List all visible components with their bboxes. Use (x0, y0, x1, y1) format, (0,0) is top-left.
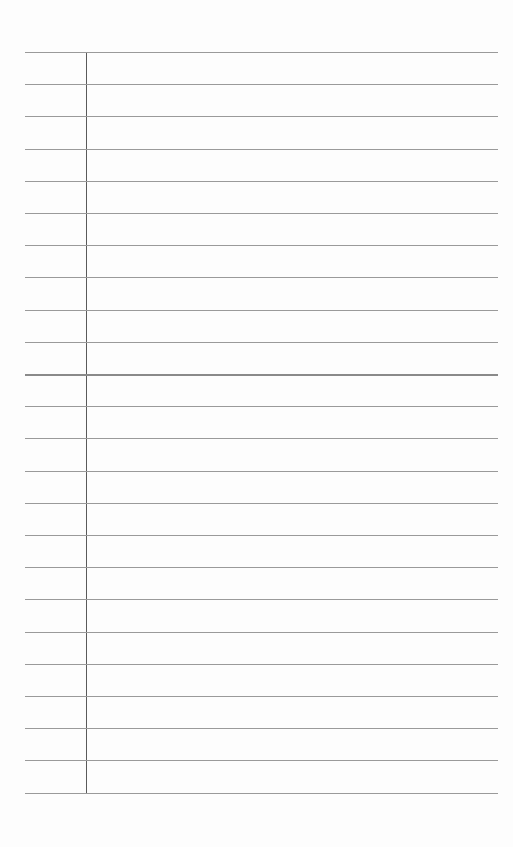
ruled-line (25, 116, 498, 117)
ruled-line (25, 245, 498, 246)
ruled-line (25, 567, 498, 568)
ruled-line (25, 84, 498, 85)
ruled-line (25, 599, 498, 600)
ruled-line (25, 213, 498, 214)
notepad-page (0, 0, 513, 847)
ruled-line (25, 310, 498, 311)
ruled-line (25, 406, 498, 407)
ruled-line (25, 438, 498, 439)
ruled-line (25, 632, 498, 633)
ruled-line (25, 52, 498, 53)
margin-line (86, 52, 87, 793)
ruled-line (25, 696, 498, 697)
ruled-line (25, 149, 498, 150)
ruled-line (25, 664, 498, 665)
ruled-line (25, 471, 498, 472)
ruled-line (25, 503, 498, 504)
ruled-line (25, 342, 498, 343)
ruled-line (25, 277, 498, 278)
ruled-line (25, 760, 498, 761)
ruled-line (25, 374, 498, 376)
ruled-line (25, 728, 498, 729)
ruled-line (25, 181, 498, 182)
ruled-line (25, 535, 498, 536)
ruled-line (25, 793, 498, 794)
